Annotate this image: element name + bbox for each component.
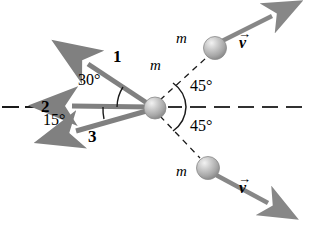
vector-3-label: 3 [88,128,97,145]
angle-45-upper-label: 45° [190,78,212,94]
vector-1-label: 1 [113,48,122,65]
upper-velocity-label: → v [239,35,314,51]
overarrow-icon: → [238,172,250,185]
incoming-vector-2 [72,106,150,107]
lower-mass-label: m [176,164,187,179]
arc-45-upper [173,83,186,107]
arc-30 [117,87,123,107]
center-mass-label: m [150,58,161,73]
angle-30-label: 30° [78,72,100,88]
upper-mass-label: m [176,31,187,46]
sphere-center-mass [144,97,166,119]
overarrow-icon: → [238,27,250,40]
arc-45-lower [173,107,186,131]
angle-45-lower-label: 45° [190,118,212,134]
lower-velocity-label: → v [239,180,314,196]
sphere-upper-mass [204,37,227,60]
sphere-lower-mass [197,157,220,180]
angle-15-label: 15° [43,112,65,128]
